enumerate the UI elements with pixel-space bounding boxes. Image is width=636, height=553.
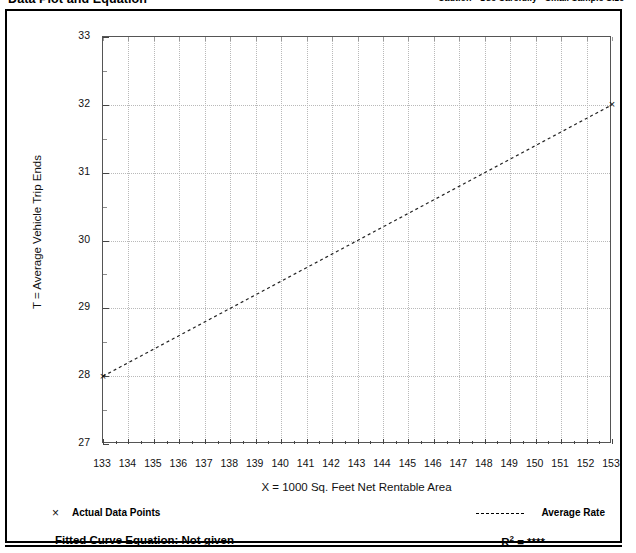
gridline-vertical xyxy=(434,37,435,442)
page-title: Data Plot and Equation xyxy=(8,0,147,6)
dashed-line-icon xyxy=(476,513,524,514)
gridline-vertical xyxy=(307,37,308,442)
y-tick-label: 29 xyxy=(64,300,90,312)
x-tick-top xyxy=(205,37,206,41)
x-tick-minor xyxy=(421,441,422,444)
y-tick xyxy=(103,241,109,242)
x-tick-minor xyxy=(599,441,600,444)
x-tick-top xyxy=(128,37,129,41)
x-tick-top xyxy=(332,37,333,41)
x-tick xyxy=(383,439,384,444)
gridline-horizontal xyxy=(103,376,610,377)
x-tick-minor xyxy=(497,441,498,444)
gridline-horizontal xyxy=(103,105,610,106)
y-tick xyxy=(103,376,109,377)
x-tick xyxy=(510,439,511,444)
gridline-vertical xyxy=(561,37,562,442)
gridline-vertical xyxy=(256,37,257,442)
x-tick-minor xyxy=(192,441,193,444)
y-tick-minor xyxy=(103,71,107,72)
x-tick-minor xyxy=(447,441,448,444)
x-tick-top xyxy=(612,37,613,41)
y-tick-label: 27 xyxy=(64,436,90,448)
x-tick xyxy=(179,439,180,444)
y-tick xyxy=(103,37,109,38)
equation-row: Fitted Curve Equation: Not given R2 = **… xyxy=(12,532,629,553)
x-tick-minor xyxy=(523,441,524,444)
gridline-vertical xyxy=(408,37,409,442)
y-tick-minor xyxy=(103,139,107,140)
x-tick-minor xyxy=(370,441,371,444)
x-tick-minor xyxy=(218,441,219,444)
gridline-vertical xyxy=(536,37,537,442)
x-tick xyxy=(459,439,460,444)
x-tick-top xyxy=(358,37,359,41)
gridline-vertical xyxy=(485,37,486,442)
x-tick-top xyxy=(154,37,155,41)
x-tick-top xyxy=(587,37,588,41)
y-axis-title: T = Average Vehicle Trip Ends xyxy=(31,82,43,382)
y-tick-minor xyxy=(103,207,107,208)
x-tick-minor xyxy=(268,441,269,444)
x-tick-minor xyxy=(548,441,549,444)
x-tick-top xyxy=(281,37,282,41)
x-tick xyxy=(205,439,206,444)
y-tick-label: 33 xyxy=(64,29,90,41)
legend-label-actual-data-points: Actual Data Points xyxy=(72,507,160,518)
x-tick-minor xyxy=(243,441,244,444)
y-tick-label: 28 xyxy=(64,368,90,380)
x-tick-label: 153 xyxy=(596,457,626,469)
gridline-vertical xyxy=(358,37,359,442)
x-tick xyxy=(307,439,308,444)
x-tick xyxy=(612,439,613,444)
page-header: Data Plot and Equation Caution - Use Car… xyxy=(0,0,636,8)
y-tick-label: 30 xyxy=(64,233,90,245)
footer-rule xyxy=(5,545,622,547)
chart-legend: × Actual Data Points Average Rate xyxy=(12,504,629,528)
y-tick-minor xyxy=(103,410,107,411)
x-tick xyxy=(587,439,588,444)
x-tick-top xyxy=(434,37,435,41)
x-tick-top xyxy=(256,37,257,41)
gridline-vertical xyxy=(281,37,282,442)
caution-note: Caution - Use Carefully - Small Sample S… xyxy=(438,0,624,3)
x-tick-minor xyxy=(294,441,295,444)
gridline-vertical xyxy=(154,37,155,442)
x-tick-minor xyxy=(345,441,346,444)
x-tick-minor xyxy=(116,441,117,444)
x-tick-top xyxy=(459,37,460,41)
gridline-horizontal xyxy=(103,173,610,174)
gridline-horizontal xyxy=(103,241,610,242)
x-tick-top xyxy=(561,37,562,41)
x-tick xyxy=(561,439,562,444)
y-tick xyxy=(103,105,109,106)
x-tick-top xyxy=(408,37,409,41)
x-tick xyxy=(434,439,435,444)
y-tick-minor xyxy=(103,274,107,275)
x-tick-minor xyxy=(141,441,142,444)
cross-marker-icon: × xyxy=(52,506,59,520)
x-tick-top xyxy=(307,37,308,41)
x-tick-minor xyxy=(319,441,320,444)
gridline-vertical xyxy=(383,37,384,442)
legend-label-average-rate: Average Rate xyxy=(541,507,605,518)
y-tick-label: 32 xyxy=(64,97,90,109)
x-tick-top xyxy=(510,37,511,41)
gridline-vertical xyxy=(332,37,333,442)
x-tick xyxy=(128,439,129,444)
gridline-vertical xyxy=(205,37,206,442)
x-tick-minor xyxy=(472,441,473,444)
x-tick xyxy=(230,439,231,444)
x-tick-top xyxy=(536,37,537,41)
gridline-vertical xyxy=(587,37,588,442)
x-tick xyxy=(358,439,359,444)
x-tick xyxy=(536,439,537,444)
y-tick-label: 31 xyxy=(64,165,90,177)
y-tick xyxy=(103,173,109,174)
gridline-vertical xyxy=(230,37,231,442)
x-tick-top xyxy=(485,37,486,41)
y-tick-minor xyxy=(103,342,107,343)
x-tick-minor xyxy=(167,441,168,444)
x-tick xyxy=(408,439,409,444)
x-tick-top xyxy=(179,37,180,41)
